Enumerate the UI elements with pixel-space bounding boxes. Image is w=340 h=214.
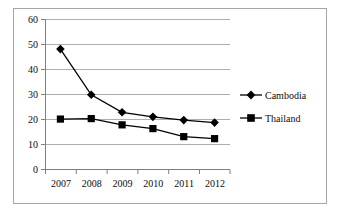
data-point-marker-square	[180, 133, 187, 140]
y-axis-ticks	[41, 20, 45, 170]
series-thailand-line	[60, 119, 214, 139]
y-tick-label-0: 0	[33, 164, 38, 175]
legend-cambodia-diamond-icon	[247, 91, 256, 100]
data-point-marker-square	[149, 125, 156, 132]
data-point-marker-diamond	[56, 45, 65, 54]
line-chart: 60 50 40 30 20 10 0 2007 2008 2009 2010 …	[0, 0, 340, 214]
x-tick-label-2007: 2007	[51, 178, 71, 189]
series-cambodia	[56, 45, 219, 127]
x-tick-label-2012: 2012	[205, 178, 225, 189]
legend-thailand-square-icon	[247, 114, 255, 122]
data-point-marker-square	[118, 121, 125, 128]
x-axis-ticks	[46, 170, 231, 175]
y-axis-tick-labels: 60 50 40 30 20 10 0	[28, 14, 38, 175]
legend-label-thailand: Thailand	[265, 113, 301, 124]
data-point-marker-diamond	[179, 116, 188, 125]
data-point-marker-square	[57, 115, 64, 122]
x-tick-label-2009: 2009	[113, 178, 133, 189]
data-point-marker-diamond	[87, 90, 96, 99]
series-cambodia-line	[60, 49, 214, 122]
y-tick-label-40: 40	[28, 64, 38, 75]
data-point-marker-square	[88, 115, 95, 122]
x-tick-label-2011: 2011	[174, 178, 194, 189]
data-point-marker-square	[211, 135, 218, 142]
x-tick-label-2008: 2008	[82, 178, 102, 189]
gridlines	[45, 20, 230, 145]
chart-figure: 60 50 40 30 20 10 0 2007 2008 2009 2010 …	[0, 0, 340, 214]
data-point-marker-diamond	[118, 108, 127, 117]
y-tick-label-10: 10	[28, 139, 38, 150]
chart-legend: Cambodia Thailand	[240, 90, 307, 124]
x-tick-label-2010: 2010	[143, 178, 163, 189]
y-tick-label-50: 50	[28, 39, 38, 50]
y-tick-label-60: 60	[28, 14, 38, 25]
x-axis-tick-labels: 2007 2008 2009 2010 2011 2012	[51, 178, 225, 189]
y-tick-label-30: 30	[28, 89, 38, 100]
legend-label-cambodia: Cambodia	[265, 90, 307, 101]
y-tick-label-20: 20	[28, 114, 38, 125]
